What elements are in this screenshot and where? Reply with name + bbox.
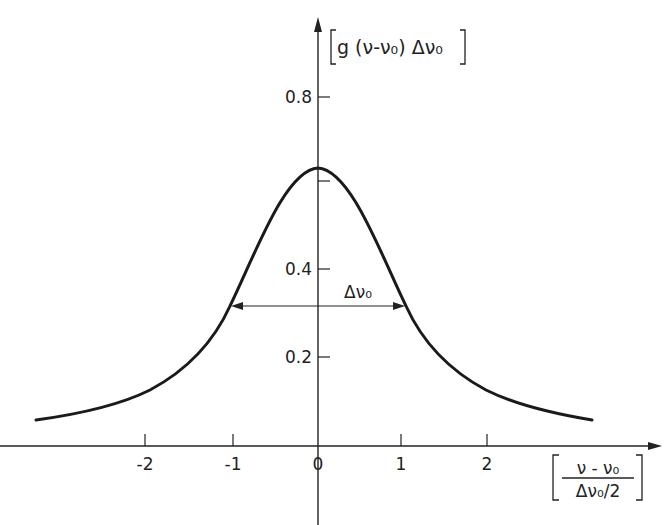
y-axis-title-text: g (ν-ν₀) Δν₀: [337, 36, 443, 58]
x-axis-title: ν - ν₀ Δν₀/2: [553, 455, 642, 501]
x-tick-label: -2: [137, 454, 154, 474]
fwhm-label: Δν₀: [344, 282, 372, 302]
lorentzian-curve: [36, 168, 592, 420]
x-axis-title-denominator: Δν₀/2: [576, 481, 620, 501]
x-tick-label: 0: [313, 454, 324, 474]
y-tick-label: 0.2: [285, 347, 312, 367]
y-tick-label: 0.4: [285, 259, 312, 279]
y-axis-title: g (ν-ν₀) Δν₀: [331, 30, 465, 64]
y-tick-labels: 0.2 0.4 0.8: [285, 87, 312, 367]
lorentzian-chart: -2 -1 0 1 2 0.2 0.4 0.8 Δν₀ g (ν-ν₀) Δν₀…: [0, 0, 667, 525]
x-tick-label: 1: [396, 454, 407, 474]
x-tick-labels: -2 -1 0 1 2: [137, 454, 493, 474]
axes: [0, 17, 662, 525]
x-tick-label: -1: [225, 454, 242, 474]
x-ticks: [145, 434, 487, 446]
x-tick-label: 2: [482, 454, 493, 474]
y-axis-arrow-icon: [314, 17, 322, 32]
x-axis-arrow-icon: [648, 442, 662, 450]
x-axis-title-numerator: ν - ν₀: [577, 458, 620, 478]
y-tick-label: 0.8: [285, 87, 312, 107]
y-ticks: [318, 97, 330, 357]
